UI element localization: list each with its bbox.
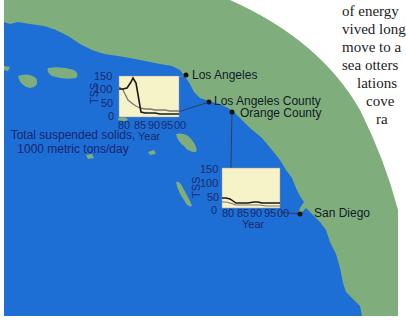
- book-text-line-1: of energy: [342, 4, 399, 19]
- chart1-ytick-50: 50: [101, 98, 113, 109]
- chart-la-county: [119, 76, 179, 117]
- chart1-ytick-150: 150: [94, 71, 112, 82]
- book-text-line-2: vived long: [342, 22, 406, 37]
- dot-orange-county: [230, 110, 235, 115]
- chart1-xtick-00: 00: [174, 120, 186, 131]
- dot-los-angeles: [184, 73, 189, 78]
- chart1-ytick-0: 0: [108, 111, 114, 122]
- chart2-ytick-100: 100: [200, 178, 218, 189]
- tss-caption: Total suspended solids, 1000 metric tons…: [4, 128, 142, 156]
- chart1-xtick-95: 95: [161, 120, 173, 131]
- chart2-ytick-150: 150: [200, 164, 218, 175]
- chart1-ylabel: TSS: [88, 83, 100, 104]
- chart2-ylabel: TSS: [190, 177, 202, 198]
- chart-orange-county: [222, 168, 280, 208]
- label-san-diego: San Diego: [314, 207, 370, 219]
- book-text-line-6: cove: [366, 94, 394, 109]
- book-text-line-3: move to a: [342, 40, 401, 55]
- chart2-ytick-50: 50: [207, 192, 219, 203]
- book-text-line-5: lations: [357, 76, 397, 91]
- caption-line-1: Total suspended solids,: [4, 128, 142, 142]
- book-text-line-7: ra: [376, 112, 388, 127]
- dot-la-county: [207, 100, 212, 105]
- chart2-ytick-0: 0: [211, 205, 217, 216]
- label-los-angeles: Los Angeles: [192, 69, 257, 81]
- chart2-xtick-95: 95: [264, 208, 276, 219]
- book-text-line-4: sea otters: [342, 58, 398, 73]
- chart2-xtick-00: 00: [277, 208, 289, 219]
- label-orange-county: Orange County: [240, 107, 321, 119]
- dot-san-diego: [298, 212, 303, 217]
- caption-line-2: 1000 metric tons/day: [4, 142, 142, 156]
- chart2-xtick-80: 80: [222, 208, 234, 219]
- chart2-xlabel: Year: [242, 219, 264, 230]
